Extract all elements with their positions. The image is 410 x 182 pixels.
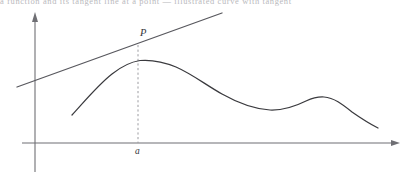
function-curve [72, 60, 378, 128]
x-axis-label-a: a [135, 147, 140, 157]
y-axis [32, 12, 38, 172]
tangent-line [17, 13, 222, 87]
x-axis-arrowhead-icon [391, 140, 400, 146]
plot-svg [0, 0, 410, 182]
y-axis-arrowhead-icon [32, 12, 38, 22]
figure-canvas: a function and its tangent line at a poi… [0, 0, 410, 182]
point-label-p: P [140, 28, 146, 39]
x-axis [22, 140, 400, 146]
